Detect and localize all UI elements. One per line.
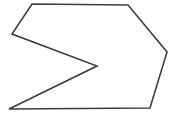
- polygon-figure-svg: [0, 0, 179, 116]
- figure-canvas: [0, 0, 179, 116]
- concave-heptagon-outline: [9, 4, 167, 109]
